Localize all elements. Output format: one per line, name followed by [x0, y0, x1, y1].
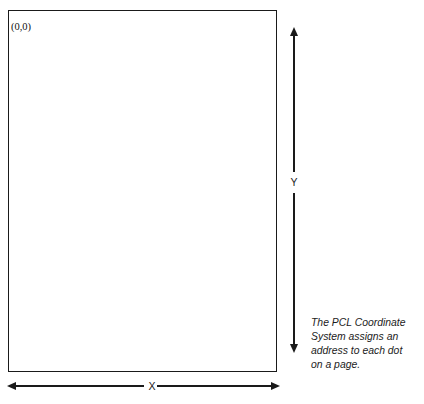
arrow-right-icon	[271, 382, 280, 390]
y-axis-arrow: Y	[286, 27, 302, 353]
top-caption-fragment: FIGURE 4-1	[4, 0, 63, 4]
x-axis-line-right	[157, 385, 272, 386]
x-axis-arrow: X	[7, 378, 280, 394]
arrow-down-icon	[290, 344, 298, 353]
caption-line: address to each dot	[311, 344, 423, 358]
caption-line: The PCL Coordinate	[311, 316, 423, 330]
y-axis-label: Y	[285, 172, 303, 193]
x-axis-line-left	[14, 385, 144, 386]
figure-canvas: FIGURE 4-1 (0,0) Y X The PCL Coordinate …	[0, 0, 424, 404]
caption-line: on a page.	[311, 358, 423, 372]
printable-page-rectangle	[8, 10, 277, 372]
origin-coordinate-label: (0,0)	[11, 21, 31, 32]
y-axis-line-upper	[293, 33, 294, 173]
caption-line: System assigns an	[311, 330, 423, 344]
figure-caption: The PCL Coordinate System assigns an add…	[311, 316, 423, 372]
y-axis-line-lower	[293, 193, 294, 347]
